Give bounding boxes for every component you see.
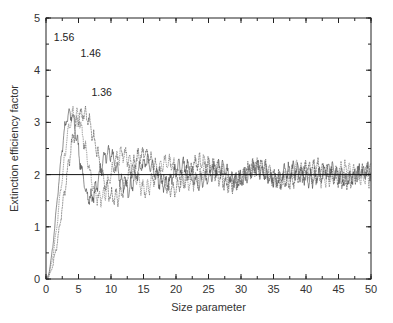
y-tick-label: 1	[34, 221, 40, 233]
x-tick-label: 10	[105, 283, 117, 295]
y-tick-label: 4	[34, 64, 40, 76]
extinction-chart: 05101520253035404550012345 1.561.461.36 …	[0, 0, 393, 323]
x-tick-label: 40	[300, 283, 312, 295]
x-tick-label: 25	[202, 283, 214, 295]
y-axis-label: Extinction efficiency factor	[8, 85, 20, 212]
x-axis-label: Size parameter	[171, 301, 246, 313]
curve-labels: 1.561.461.36	[54, 31, 112, 98]
x-tick-label: 45	[332, 283, 344, 295]
curves	[46, 106, 371, 279]
x-tick-label: 35	[267, 283, 279, 295]
y-tick-label: 3	[34, 116, 40, 128]
x-tick-label: 0	[43, 283, 49, 295]
x-tick-label: 15	[137, 283, 149, 295]
y-tick-label: 2	[34, 169, 40, 181]
x-tick-label: 30	[235, 283, 247, 295]
curve-label-1-56: 1.56	[54, 31, 75, 43]
y-tick-label: 0	[34, 273, 40, 285]
x-tick-label: 5	[75, 283, 81, 295]
curve-n-1-56	[46, 109, 371, 279]
curve-label-1-36: 1.36	[92, 86, 113, 98]
curve-label-1-46: 1.46	[80, 47, 101, 59]
y-tick-label: 5	[34, 12, 40, 24]
x-tick-label: 50	[365, 283, 377, 295]
x-tick-label: 20	[170, 283, 182, 295]
